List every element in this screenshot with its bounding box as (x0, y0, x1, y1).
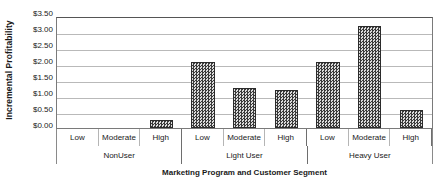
y-axis-tick-label: $3.00 (19, 26, 53, 34)
category-label: Low (57, 129, 99, 146)
y-axis-tick-labels: $3.50$3.00$2.50$2.00$1.50$1.00$0.50$0.00 (19, 14, 55, 129)
category-label: Moderate (224, 129, 266, 146)
bar[interactable] (233, 88, 256, 128)
bar[interactable] (400, 110, 423, 128)
y-axis-title-text: Incremental Profitability (4, 20, 14, 119)
bar-series (57, 18, 432, 128)
category-label: Low (307, 129, 349, 146)
y-axis-tick-label: $3.50 (19, 10, 53, 18)
bar-slot (182, 18, 224, 128)
y-axis-tick-label: $0.00 (19, 122, 53, 130)
category-label: High (140, 129, 182, 146)
category-label: High (265, 129, 307, 146)
y-axis-tick-label: $2.50 (19, 42, 53, 50)
group-label: NonUser (57, 146, 182, 164)
y-axis-tick-label: $1.00 (19, 90, 53, 98)
group-label: Heavy User (308, 146, 432, 164)
group-axis-labels: NonUserLight UserHeavy User (56, 146, 433, 164)
category-axis-labels: LowModerateHighLowModerateHighLowModerat… (56, 129, 433, 146)
bar[interactable] (275, 90, 298, 128)
bar-slot (265, 18, 307, 128)
x-axis-title: Marketing Program and Customer Segment (56, 168, 433, 177)
bar-slot (99, 18, 141, 128)
category-label: Moderate (99, 129, 141, 146)
category-label: Low (182, 129, 224, 146)
bar[interactable] (316, 62, 339, 128)
bar-slot (307, 18, 349, 128)
y-axis-tick-label: $2.00 (19, 58, 53, 66)
bar-slot (349, 18, 391, 128)
category-label: Moderate (349, 129, 391, 146)
category-label: High (390, 129, 432, 146)
bar[interactable] (191, 62, 214, 128)
y-axis-tick-label: $1.50 (19, 74, 53, 82)
bar[interactable] (358, 26, 381, 128)
bar-slot (57, 18, 99, 128)
chart-container: Incremental Profitability $3.50$3.00$2.5… (0, 0, 444, 189)
y-axis-title: Incremental Profitability (0, 0, 18, 140)
y-axis-tick-label: $0.50 (19, 106, 53, 114)
bar-slot (224, 18, 266, 128)
bar-slot (390, 18, 432, 128)
group-label: Light User (182, 146, 307, 164)
plot-area (56, 17, 433, 129)
bar[interactable] (150, 120, 173, 128)
bar-slot (140, 18, 182, 128)
